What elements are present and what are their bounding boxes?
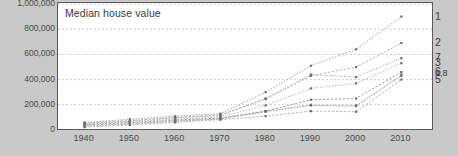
data-point-marker bbox=[355, 76, 357, 78]
plot-area: Median house value bbox=[57, 2, 433, 130]
series-line bbox=[85, 58, 402, 124]
data-point-marker bbox=[310, 73, 312, 75]
data-point-marker bbox=[400, 57, 402, 59]
series-lines bbox=[84, 16, 403, 129]
y-axis-tick-label: 600,000 bbox=[3, 48, 55, 58]
data-point-marker bbox=[355, 82, 357, 84]
x-axis-tick-label: 1950 bbox=[106, 133, 152, 143]
data-point-marker bbox=[310, 65, 312, 67]
x-axis-tick-label: 2010 bbox=[377, 133, 423, 143]
data-point-marker bbox=[174, 121, 176, 123]
series-end-label: 2 bbox=[435, 37, 441, 48]
y-axis-tick-label: 400,000 bbox=[3, 74, 55, 84]
data-point-marker bbox=[265, 104, 267, 106]
data-point-marker bbox=[400, 62, 402, 64]
data-point-marker bbox=[400, 16, 402, 18]
y-axis: 1,000,000800,000600,000400,000200,0000 bbox=[0, 0, 55, 156]
data-point-marker bbox=[310, 87, 312, 89]
y-axis-tick-label: 800,000 bbox=[3, 23, 55, 33]
data-point-marker bbox=[265, 91, 267, 93]
data-point-marker bbox=[129, 124, 131, 126]
data-point-marker bbox=[400, 79, 402, 81]
y-axis-tick-label: 200,000 bbox=[3, 99, 55, 109]
data-point-marker bbox=[355, 97, 357, 99]
chart-screenshot: 1,000,000800,000600,000400,000200,0000 M… bbox=[0, 0, 458, 156]
x-axis-tick-label: 2000 bbox=[332, 133, 378, 143]
series-end-label: 1 bbox=[435, 11, 441, 22]
data-point-marker bbox=[310, 99, 312, 101]
data-point-marker bbox=[265, 111, 267, 113]
data-point-marker bbox=[265, 115, 267, 117]
plot-svg bbox=[58, 3, 434, 131]
x-axis-tick-label: 1940 bbox=[61, 133, 107, 143]
data-point-marker bbox=[355, 105, 357, 107]
data-point-marker bbox=[355, 66, 357, 68]
series-line bbox=[85, 75, 402, 126]
x-axis-tick-label: 1960 bbox=[151, 133, 197, 143]
data-point-marker bbox=[310, 110, 312, 112]
data-point-marker bbox=[355, 48, 357, 50]
data-point-marker bbox=[84, 126, 86, 128]
series-line bbox=[85, 72, 402, 125]
bottom-margin bbox=[0, 148, 458, 156]
y-axis-tick-label: 0 bbox=[3, 124, 55, 134]
series-line bbox=[85, 80, 402, 128]
series-line bbox=[85, 17, 402, 123]
data-point-marker bbox=[310, 104, 312, 106]
data-point-marker bbox=[219, 119, 221, 121]
data-point-marker bbox=[265, 97, 267, 99]
data-point-marker bbox=[400, 71, 402, 73]
gridlines bbox=[58, 4, 434, 105]
x-axis-tick-label: 1990 bbox=[287, 133, 333, 143]
x-axis-tick-label: 1980 bbox=[242, 133, 288, 143]
data-point-marker bbox=[400, 75, 402, 77]
series-end-label: 5 bbox=[435, 74, 441, 85]
x-axis-tick-label: 1970 bbox=[196, 133, 242, 143]
y-axis-tick-label: 1,000,000 bbox=[3, 0, 55, 8]
x-axis: 19401950196019701980199020002010 bbox=[57, 133, 433, 149]
data-point-marker bbox=[400, 42, 402, 44]
right-margin bbox=[450, 0, 458, 156]
data-point-marker bbox=[355, 111, 357, 113]
